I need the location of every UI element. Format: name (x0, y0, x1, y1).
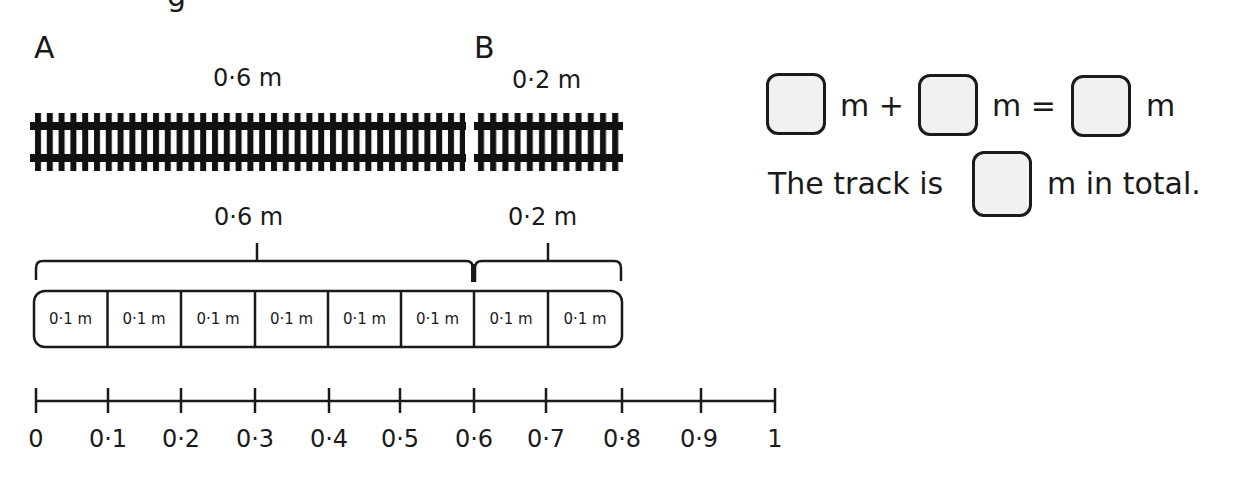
railway-tracks-drawing (0, 0, 1243, 478)
answer-box-total[interactable] (972, 151, 1032, 217)
answer-box-addend-1[interactable] (766, 73, 826, 135)
tick-label: 0·8 (603, 425, 641, 453)
tick-label: 0·1 (89, 425, 127, 453)
bar-cell: 0·1 m (181, 310, 255, 328)
tick-label: 0·4 (310, 425, 348, 453)
equation-unit-plus: m + (840, 88, 904, 123)
bar-cell: 0·1 m (548, 310, 622, 328)
sentence-suffix: m in total. (1047, 166, 1201, 201)
equation-unit: m (1146, 88, 1175, 123)
tick-label: 0·6 (455, 425, 493, 453)
equation-unit-equals: m = (992, 88, 1056, 123)
tick-label: 0·2 (162, 425, 200, 453)
tick-label: 0·3 (236, 425, 274, 453)
track-b (474, 113, 623, 171)
tick-label: 0·9 (680, 425, 718, 453)
tick-label: 1 (767, 425, 782, 453)
brace-label-0-6: 0·6 m (214, 203, 283, 231)
track-a (30, 113, 466, 171)
bar-cell: 0·1 m (34, 310, 107, 328)
tick-label: 0·7 (527, 425, 565, 453)
bar-cell: 0·1 m (328, 310, 401, 328)
answer-box-addend-2[interactable] (918, 74, 978, 136)
brace-label-0-2: 0·2 m (508, 203, 577, 231)
bar-cell: 0·1 m (255, 310, 328, 328)
brace-0-2 (475, 243, 621, 282)
tick-label: 0·5 (381, 425, 419, 453)
bar-cell: 0·1 m (107, 310, 181, 328)
number-line (36, 388, 775, 413)
tick-label: 0 (28, 425, 43, 453)
answer-box-sum[interactable] (1071, 75, 1131, 137)
sentence-prefix: The track is (768, 166, 943, 201)
bar-cell: 0·1 m (474, 310, 548, 328)
bar-cell: 0·1 m (401, 310, 474, 328)
brace-0-6 (36, 243, 473, 282)
